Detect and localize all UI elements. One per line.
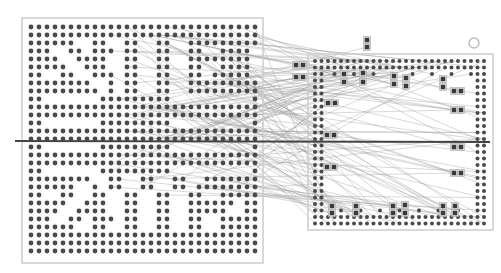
bga-diagram (0, 0, 501, 273)
left-chip-balls (29, 25, 258, 254)
fiducial-marker-icon (469, 38, 479, 48)
cut-line (15, 141, 490, 142)
